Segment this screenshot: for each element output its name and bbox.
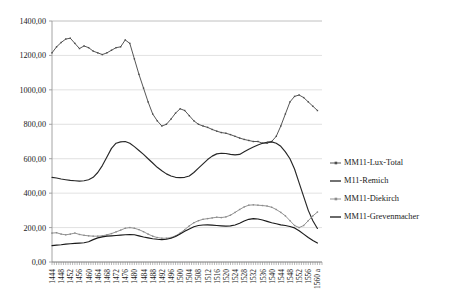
series-marker xyxy=(70,38,71,39)
series-marker xyxy=(257,141,258,142)
series-marker xyxy=(147,233,148,234)
series-marker xyxy=(308,220,309,221)
legend-label-1: MM11-Lux-Total xyxy=(344,158,404,167)
x-axis-tick-label: 1528 xyxy=(240,269,249,284)
series-marker xyxy=(216,217,217,218)
series-marker xyxy=(152,235,153,236)
chart-container: 0,00200,00400,00600,00800,001000,001200,… xyxy=(0,0,449,306)
series-marker xyxy=(106,234,107,235)
series-marker xyxy=(271,207,272,208)
series-marker xyxy=(262,205,263,206)
series-marker xyxy=(202,125,203,126)
series-marker xyxy=(74,43,75,44)
x-axis-tick-label: 1520 xyxy=(222,269,231,284)
x-axis-tick-label: 1464 xyxy=(94,269,103,284)
y-axis-tick-label: 600,00 xyxy=(23,155,46,164)
series-marker xyxy=(83,45,84,46)
x-axis-tick-label: 1536 xyxy=(259,269,268,284)
series-marker xyxy=(92,50,93,51)
series-marker xyxy=(179,108,180,109)
series-marker xyxy=(202,219,203,220)
series-marker xyxy=(106,52,107,53)
y-axis-tick-label: 0,00 xyxy=(32,258,46,267)
series-marker xyxy=(266,205,267,206)
series-marker xyxy=(88,235,89,236)
x-axis-tick-label: 1540 xyxy=(268,269,277,284)
x-axis-tick-label: 1560 a xyxy=(313,268,322,289)
x-axis-tick-label: 1532 xyxy=(249,269,258,284)
series-marker xyxy=(143,231,144,232)
series-marker xyxy=(230,134,231,135)
series-marker xyxy=(83,235,84,236)
series-marker xyxy=(129,227,130,228)
x-axis-tick-label: 1492 xyxy=(158,269,167,284)
x-axis-tick-label: 1516 xyxy=(213,269,222,284)
y-axis-tick-label: 800,00 xyxy=(23,120,46,129)
series-marker xyxy=(157,120,158,121)
series-marker xyxy=(276,209,277,210)
series-marker xyxy=(294,96,295,97)
series-marker xyxy=(234,212,235,213)
series-marker xyxy=(120,229,121,230)
series-marker xyxy=(239,209,240,210)
series-marker xyxy=(285,113,286,114)
series-marker xyxy=(244,206,245,207)
series-marker xyxy=(56,232,57,233)
x-axis-tick-label: 1476 xyxy=(121,269,130,284)
series-marker xyxy=(111,50,112,51)
series-marker xyxy=(193,120,194,121)
y-axis-tick-label: 1000,00 xyxy=(19,86,46,95)
series-marker xyxy=(276,136,277,137)
series-marker xyxy=(294,225,295,226)
series-marker xyxy=(285,215,286,216)
series-marker xyxy=(184,110,185,111)
series-marker xyxy=(134,228,135,229)
series-marker xyxy=(248,140,249,141)
x-axis-tick-label: 1504 xyxy=(185,269,194,284)
series-marker xyxy=(138,74,139,75)
series-marker xyxy=(143,87,144,88)
x-axis-tick-label: 1512 xyxy=(204,269,213,284)
series-marker xyxy=(115,47,116,48)
series-marker xyxy=(303,97,304,98)
series-marker xyxy=(129,43,130,44)
series-marker xyxy=(198,124,199,125)
series-marker xyxy=(211,217,212,218)
series-marker xyxy=(111,233,112,234)
legend-swatch-marker-3 xyxy=(335,198,338,201)
series-marker xyxy=(120,46,121,47)
series-marker xyxy=(157,237,158,238)
series-marker xyxy=(161,125,162,126)
series-marker xyxy=(97,235,98,236)
series-marker xyxy=(189,115,190,116)
x-axis-tick-label: 1544 xyxy=(277,269,286,284)
x-axis-tick-label: 1460 xyxy=(85,269,94,284)
series-marker xyxy=(115,231,116,232)
series-marker xyxy=(253,141,254,142)
series-marker xyxy=(308,101,309,102)
series-marker xyxy=(134,58,135,59)
series-marker xyxy=(257,204,258,205)
y-axis-tick-label: 1200,00 xyxy=(19,51,46,60)
y-axis-tick-label: 1400,00 xyxy=(19,17,46,26)
series-marker xyxy=(79,48,80,49)
series-marker xyxy=(102,54,103,55)
series-marker xyxy=(253,204,254,205)
series-marker xyxy=(289,220,290,221)
series-marker xyxy=(147,101,148,102)
series-marker xyxy=(138,229,139,230)
series-marker xyxy=(70,233,71,234)
y-axis-tick-label: 400,00 xyxy=(23,189,46,198)
x-axis-tick-label: 1480 xyxy=(130,269,139,284)
series-marker xyxy=(51,232,52,233)
series-marker xyxy=(298,94,299,95)
series-marker xyxy=(298,227,299,228)
series-marker xyxy=(92,235,93,236)
series-marker xyxy=(125,39,126,40)
series-line-4 xyxy=(52,219,317,246)
x-axis-tick-label: 1452 xyxy=(66,269,75,284)
series-marker xyxy=(198,220,199,221)
line-chart: 0,00200,00400,00600,00800,001000,001200,… xyxy=(0,0,449,306)
series-marker xyxy=(221,132,222,133)
x-axis-tick-label: 1524 xyxy=(231,269,240,284)
